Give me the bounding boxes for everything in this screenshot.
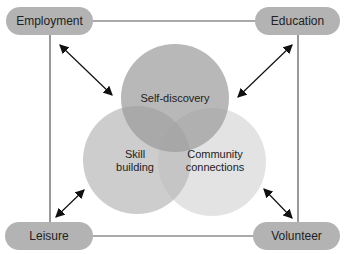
label-community-connections: Community connections <box>180 148 250 174</box>
arrow-employment <box>60 45 112 95</box>
node-volunteer: Volunteer <box>253 222 340 250</box>
arrow-education <box>238 45 292 97</box>
label-skill-building: Skill building <box>110 148 160 174</box>
node-education: Education <box>255 7 340 35</box>
arrow-volunteer <box>264 189 292 218</box>
label-self-discovery: Self-discovery <box>130 92 220 105</box>
node-leisure: Leisure <box>5 222 93 250</box>
node-employment: Employment <box>6 7 93 35</box>
arrow-leisure <box>56 190 84 217</box>
diagram-canvas <box>0 0 346 254</box>
